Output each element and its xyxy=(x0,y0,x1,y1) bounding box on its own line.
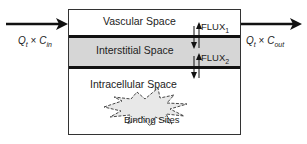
intracellular-space-label: Intracellular Space xyxy=(90,78,177,90)
flux2-label: FLUX2 xyxy=(201,52,229,65)
inflow-arrow-icon xyxy=(6,18,68,30)
outflow-arrow-icon xyxy=(241,18,302,30)
flux1-label: FLUX1 xyxy=(201,21,229,34)
binding-sites-label: Binding Sites xyxy=(124,114,179,125)
vascular-space-label: Vascular Space xyxy=(103,15,176,27)
inflow-label: Qt × Cin xyxy=(18,35,52,48)
outflow-label: Qt × Cout xyxy=(246,35,284,48)
interstitial-space-label: Interstitial Space xyxy=(96,44,174,56)
